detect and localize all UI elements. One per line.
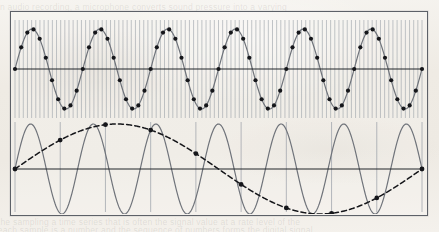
sample-point: [303, 27, 307, 31]
sample-point: [241, 37, 245, 41]
sample-point: [235, 27, 239, 31]
sample-point: [420, 67, 424, 71]
sample-point: [149, 67, 153, 71]
chart-top-panel: [13, 20, 424, 118]
sample-point: [58, 138, 63, 143]
ghost-text-bottom-1: the sampling a time series that is often…: [0, 217, 439, 227]
sample-point: [93, 31, 97, 35]
sample-point: [19, 45, 23, 49]
sample-point: [266, 106, 270, 110]
sample-point: [253, 78, 257, 82]
sample-point: [198, 106, 202, 110]
sample-point: [161, 31, 165, 35]
sample-point: [247, 56, 251, 60]
sample-point: [81, 67, 85, 71]
sample-point: [13, 67, 17, 71]
sample-point: [193, 151, 198, 156]
sample-point: [290, 45, 294, 49]
scanned-page: in audio recording, a microphone convert…: [0, 0, 439, 232]
sample-point: [364, 31, 368, 35]
sample-point: [346, 89, 350, 93]
sample-point: [44, 56, 48, 60]
sample-point: [25, 31, 29, 35]
sample-point: [284, 67, 288, 71]
sample-point: [167, 27, 171, 31]
sample-point: [179, 56, 183, 60]
figure-title: Aliasing of a sampled sinusoid: [0, 0, 1, 1]
sample-point: [420, 167, 425, 172]
sample-point: [56, 97, 60, 101]
sample-point: [112, 56, 116, 60]
sample-point: [297, 31, 301, 35]
sample-point: [408, 103, 412, 107]
sample-point: [142, 89, 146, 93]
figure-canvas: [11, 12, 426, 214]
sample-point: [260, 97, 264, 101]
sample-point: [31, 27, 35, 31]
sample-point: [389, 78, 393, 82]
sample-point: [371, 27, 375, 31]
sample-point: [395, 97, 399, 101]
sample-point: [87, 45, 91, 49]
sample-point: [99, 27, 103, 31]
sample-point: [130, 106, 134, 110]
sample-point: [374, 196, 379, 201]
sample-point: [124, 97, 128, 101]
sample-point: [38, 37, 42, 41]
figure-frame: [10, 11, 428, 216]
sample-point: [173, 37, 177, 41]
sample-point: [103, 122, 108, 127]
sample-point: [223, 45, 227, 49]
sample-point: [352, 67, 356, 71]
sample-point: [309, 37, 313, 41]
sample-point: [210, 89, 214, 93]
sample-point: [13, 167, 18, 172]
sample-point: [148, 128, 153, 133]
sample-point: [383, 56, 387, 60]
chart-bottom-panel: [13, 122, 425, 214]
sample-point: [155, 45, 159, 49]
sample-point: [204, 103, 208, 107]
sample-point: [62, 106, 66, 110]
sample-point: [75, 89, 79, 93]
sample-point: [68, 103, 72, 107]
ghost-text-bottom-2: each sample is a number and the sequence…: [0, 225, 439, 232]
sample-point: [278, 89, 282, 93]
sample-point: [315, 56, 319, 60]
sample-point: [136, 103, 140, 107]
sample-point: [414, 89, 418, 93]
sample-point: [284, 206, 289, 211]
sample-point: [118, 78, 122, 82]
sample-point: [321, 78, 325, 82]
sample-point: [105, 37, 109, 41]
sample-point: [401, 106, 405, 110]
sample-point: [358, 45, 362, 49]
sample-point: [192, 97, 196, 101]
sample-point: [239, 182, 244, 187]
sample-point: [327, 97, 331, 101]
sample-point: [186, 78, 190, 82]
sample-point: [340, 103, 344, 107]
sample-point: [216, 67, 220, 71]
sample-point: [272, 103, 276, 107]
sample-point: [229, 31, 233, 35]
sample-point: [377, 37, 381, 41]
sample-point: [329, 211, 334, 214]
sample-point: [334, 106, 338, 110]
sample-point: [50, 78, 54, 82]
